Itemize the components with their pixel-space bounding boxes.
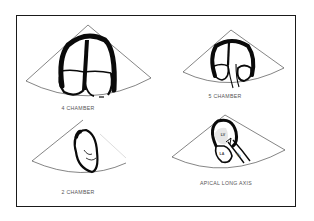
septum	[228, 42, 229, 65]
apical-long-axis-view	[172, 115, 285, 168]
lv-label: LV	[221, 133, 225, 137]
apical-long-axis-label: APICAL LONG AXIS	[200, 180, 252, 186]
echo-views-figure: 4 CHAMBER 5 CHAMBER 2 CHAMBER APICAL LON…	[0, 0, 314, 221]
five-chamber-view	[183, 30, 284, 88]
sector-outline	[183, 30, 284, 83]
two-chamber-view	[32, 120, 126, 173]
apex-wall	[76, 132, 82, 138]
four-chamber-view	[26, 25, 151, 97]
four-chamber-label: 4 CHAMBER	[62, 105, 95, 111]
diagram-canvas	[0, 0, 314, 221]
mitral-leaflets	[84, 150, 96, 160]
two-chamber-label: 2 CHAMBER	[62, 189, 95, 195]
sector-edge-faint	[100, 134, 126, 158]
sector-outline	[32, 120, 126, 173]
five-chamber-label: 5 CHAMBER	[209, 93, 242, 99]
la-label: LA	[220, 152, 225, 156]
sector-outline	[172, 115, 285, 168]
